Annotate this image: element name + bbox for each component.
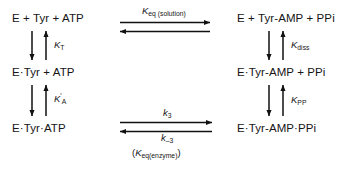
constant-bottom-reverse-sub: –3	[166, 137, 174, 144]
constant-bottom-overall-sub: eq(enzyme)	[142, 152, 178, 159]
reaction-scheme: E + Tyr + ATP E·Tyr + ATP E·Tyr·ATP E + …	[0, 0, 347, 169]
constant-left-lower: K′A	[54, 94, 66, 105]
constant-bottom-forward-sub: 3	[168, 112, 172, 119]
arrow-layer	[0, 0, 347, 169]
constant-bottom-reverse: k–3	[161, 133, 173, 144]
constant-bottom-forward: k3	[163, 108, 172, 119]
constant-top-horizontal: Keq (solution)	[142, 6, 186, 17]
constant-right-upper-sub: diss	[297, 44, 309, 51]
constant-right-upper: Kdiss	[291, 40, 309, 51]
constant-left-upper: KT	[54, 40, 65, 51]
constant-left-lower-sub: A	[62, 98, 67, 105]
constant-bottom-overall-symbol: K	[135, 147, 141, 158]
constant-bottom-overall: (Keq(enzyme))	[132, 148, 181, 159]
constant-right-lower: KPP	[291, 95, 306, 106]
constant-right-lower-sub: PP	[297, 99, 306, 106]
constant-bottom-overall-close: )	[177, 147, 180, 158]
constant-top-horizontal-sub: eq (solution)	[148, 10, 185, 17]
constant-left-upper-sub: T	[60, 44, 64, 51]
